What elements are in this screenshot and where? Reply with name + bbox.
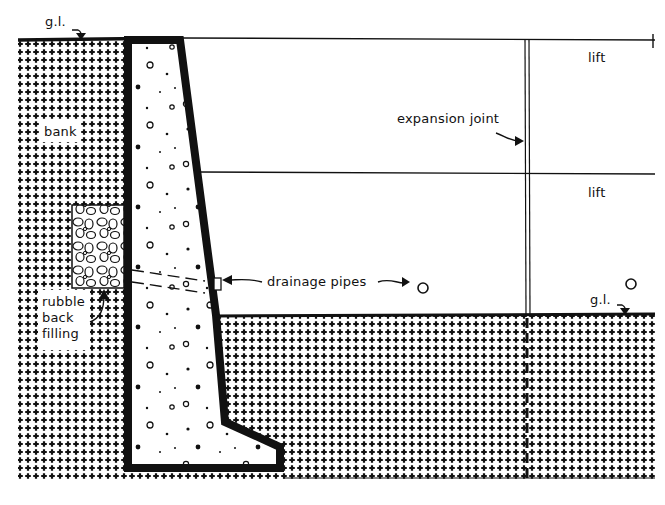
label-rubble-1: rubble	[42, 294, 85, 309]
arrow-expansion-joint	[496, 133, 524, 146]
label-rubble-3: filling	[42, 326, 79, 341]
label-rubble-2: back	[42, 310, 74, 325]
retaining-wall-diagram	[0, 0, 665, 505]
label-lift-upper: lift	[588, 50, 605, 65]
arrow-pipes-marker	[378, 277, 410, 287]
lift-line-top	[183, 38, 655, 40]
rubble-back-filling	[72, 205, 124, 288]
label-drainage-pipes: drainage pipes	[267, 274, 366, 289]
label-expansion-joint: expansion joint	[397, 111, 499, 126]
pipe-marker-circle-1	[418, 283, 428, 293]
ground-level-line-top	[18, 38, 183, 40]
expansion-joint	[525, 40, 526, 314]
label-lift-lower: lift	[588, 185, 605, 200]
arrow-drainage	[222, 275, 262, 285]
label-gl-top: g.l.	[45, 14, 66, 29]
pipe-marker-circle-2	[626, 279, 636, 289]
label-bank: bank	[44, 124, 77, 139]
label-gl-right: g.l.	[590, 292, 611, 307]
ground-level-line-right	[215, 314, 655, 316]
lift-line-middle	[199, 172, 655, 174]
